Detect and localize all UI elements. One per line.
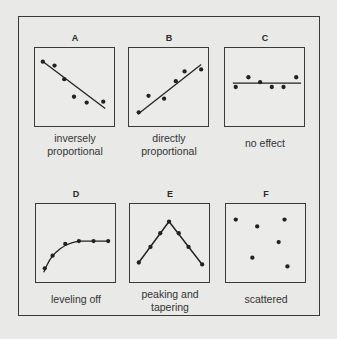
panel-letter: E (129, 189, 211, 199)
panel-caption: directly proportional (118, 132, 220, 158)
caption-line: scattered (215, 293, 317, 306)
caption-line: tapering (119, 301, 221, 314)
panel-letter: A (34, 33, 116, 43)
caption-line: proportional (24, 145, 126, 158)
scatter-plot-b (129, 48, 208, 126)
panel-caption: scattered (215, 293, 317, 306)
panel-letter: D (35, 189, 117, 199)
plot-leveling-off (35, 203, 116, 283)
plot-peaking-and-tapering (129, 203, 210, 283)
scatter-plot-f (226, 204, 305, 282)
plot-inversely-proportional (34, 47, 115, 127)
scatter-plot-a (35, 48, 114, 126)
caption-line: leveling off (25, 293, 127, 306)
panel-caption: no effect (214, 137, 316, 150)
caption-line: directly (118, 132, 220, 145)
panel-letter: C (224, 33, 306, 43)
caption-line: peaking and (119, 288, 221, 301)
panel-letter: B (128, 33, 210, 43)
scatter-plot-c (225, 48, 304, 126)
panel-caption: leveling off (25, 293, 127, 306)
caption-line: no effect (214, 137, 316, 150)
line-plot-d (36, 204, 115, 282)
panel-caption: peaking and tapering (119, 288, 221, 314)
panel-caption: inversely proportional (24, 132, 126, 158)
plot-scattered (225, 203, 306, 283)
caption-line: inversely (24, 132, 126, 145)
plot-directly-proportional (128, 47, 209, 127)
panel-letter: F (225, 189, 307, 199)
line-plot-e (130, 204, 209, 282)
caption-line: proportional (118, 145, 220, 158)
plot-no-effect (224, 47, 305, 127)
